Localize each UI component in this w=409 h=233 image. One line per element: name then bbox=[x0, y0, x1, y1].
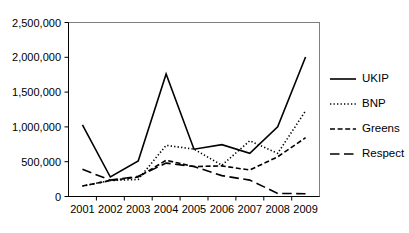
x-tick-label: 2006 bbox=[210, 203, 234, 215]
y-tick-label: 1,000,000 bbox=[12, 121, 61, 133]
x-tick-label: 2009 bbox=[293, 203, 317, 215]
x-tick-label: 2003 bbox=[126, 203, 150, 215]
x-tick-label: 2007 bbox=[238, 203, 262, 215]
y-tick-label: 0 bbox=[55, 191, 61, 203]
legend-label-bnp: BNP bbox=[362, 97, 386, 109]
x-tick-label: 2001 bbox=[70, 203, 94, 215]
legend-label-respect: Respect bbox=[362, 147, 405, 159]
chart-background bbox=[0, 0, 409, 233]
y-tick-label: 2,000,000 bbox=[12, 51, 61, 63]
chart-canvas: 2,500,000 2,000,000 1,500,000 1,000,000 … bbox=[0, 0, 409, 233]
x-tick-label: 2008 bbox=[265, 203, 289, 215]
y-tick-label: 2,500,000 bbox=[12, 17, 61, 29]
x-tick-label: 2005 bbox=[182, 203, 206, 215]
legend-label-ukip: UKIP bbox=[362, 72, 389, 84]
x-tick-label: 2004 bbox=[154, 203, 178, 215]
legend-label-greens: Greens bbox=[362, 122, 400, 134]
x-axis-labels: 2001 2002 2003 2004 2005 2006 2007 2008 … bbox=[70, 203, 318, 215]
y-tick-label: 500,000 bbox=[21, 156, 61, 168]
x-tick-label: 2002 bbox=[98, 203, 122, 215]
y-tick-label: 1,500,000 bbox=[12, 86, 61, 98]
line-chart: 2,500,000 2,000,000 1,500,000 1,000,000 … bbox=[0, 0, 409, 233]
